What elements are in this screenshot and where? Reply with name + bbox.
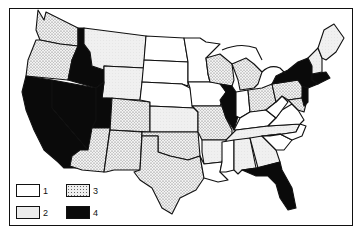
legend-label-2: 2 bbox=[43, 208, 48, 218]
us-choropleth-map bbox=[0, 0, 362, 241]
state-montana bbox=[84, 28, 146, 70]
state-florida bbox=[242, 162, 296, 210]
legend-swatch-2 bbox=[16, 206, 40, 219]
state-wisconsin bbox=[206, 54, 234, 86]
state-north-dakota bbox=[144, 36, 188, 62]
state-kansas bbox=[150, 106, 198, 132]
state-colorado bbox=[110, 98, 150, 132]
state-mississippi bbox=[220, 140, 234, 172]
legend-swatch-4 bbox=[66, 206, 90, 219]
state-wyoming bbox=[102, 66, 144, 100]
state-michigan bbox=[232, 58, 262, 90]
legend-label-4: 4 bbox=[93, 208, 98, 218]
state-new-jersey bbox=[302, 86, 308, 106]
state-new-mexico bbox=[104, 130, 142, 172]
legend-label-1: 1 bbox=[43, 186, 48, 196]
great-lakes-outline bbox=[222, 45, 262, 60]
legend-swatch-1 bbox=[16, 184, 40, 197]
legend-label-3: 3 bbox=[93, 186, 98, 196]
state-maine bbox=[318, 24, 344, 60]
legend-swatch-3 bbox=[66, 184, 90, 197]
